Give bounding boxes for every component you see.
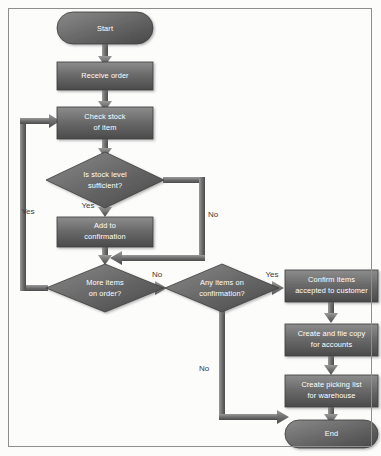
node-add-to-confirmation-label-line2: confirmation bbox=[84, 232, 125, 241]
edge-label-yes-any-items: Yes bbox=[265, 270, 278, 279]
node-stock-level-decision[interactable]: Is stock level sufficient? bbox=[46, 152, 164, 208]
edge-label-yes-stock-sufficient: Yes bbox=[81, 201, 94, 210]
node-more-items-decision[interactable]: More items on order? bbox=[46, 264, 164, 312]
connector-addconf-to-moreitems bbox=[98, 247, 112, 265]
edge-label-no-stock-sufficient: No bbox=[208, 210, 219, 219]
node-file-copy[interactable]: Create and file copy for accounts bbox=[285, 324, 378, 356]
node-start-label: Start bbox=[97, 24, 113, 33]
edge-label-no-more-items: No bbox=[152, 270, 163, 279]
node-file-copy-label-line1: Create and file copy bbox=[298, 329, 366, 338]
flowchart-canvas: Add to confirmation --> (right, down, le… bbox=[0, 0, 381, 456]
node-confirm-items[interactable]: Confirm items accepted to customer bbox=[285, 270, 378, 302]
flowchart-svg: Add to confirmation --> (right, down, le… bbox=[0, 0, 381, 456]
connector-anyitems-no-to-end bbox=[219, 310, 289, 424]
node-picking-list-label-line2: for warehouse bbox=[307, 391, 355, 400]
node-start[interactable]: Start bbox=[57, 12, 153, 44]
node-confirm-items-label-line2: accepted to customer bbox=[295, 286, 368, 295]
node-any-items-label-line1: Any items on bbox=[200, 278, 244, 287]
node-stock-level-label-line2: sufficient? bbox=[88, 181, 122, 190]
node-more-items-label-line2: on order? bbox=[89, 289, 122, 298]
node-check-stock-label-line2: of item bbox=[94, 123, 117, 132]
node-more-items-label-line1: More items bbox=[86, 278, 124, 287]
node-any-items-decision[interactable]: Any items on confirmation? bbox=[165, 264, 279, 312]
node-stock-level-label-line1: Is stock level bbox=[83, 170, 127, 179]
node-any-items-label-line2: confirmation? bbox=[199, 289, 245, 298]
node-add-to-confirmation-label-line1: Add to bbox=[94, 221, 116, 230]
node-receive-order[interactable]: Receive order bbox=[57, 62, 153, 90]
node-check-stock[interactable]: Check stock of item bbox=[57, 107, 153, 139]
connector-filecopy-to-pickinglist bbox=[324, 356, 338, 375]
node-picking-list[interactable]: Create picking list for warehouse bbox=[285, 375, 378, 407]
node-picking-list-label-line1: Create picking list bbox=[301, 380, 361, 389]
connector-confirmitems-to-filecopy bbox=[324, 302, 338, 323]
node-receive-order-label: Receive order bbox=[81, 71, 129, 80]
node-end-label: End bbox=[325, 429, 338, 438]
edge-label-no-any-items: No bbox=[199, 364, 210, 373]
node-file-copy-label-line2: for accounts bbox=[311, 340, 353, 349]
node-check-stock-label-line1: Check stock bbox=[84, 112, 126, 121]
node-add-to-confirmation[interactable]: Add to confirmation bbox=[57, 217, 153, 247]
node-confirm-items-label-line1: Confirm items bbox=[308, 275, 355, 284]
connector-moreitems-yes-to-check bbox=[20, 114, 60, 291]
edge-label-yes-loopback: Yes bbox=[21, 207, 34, 216]
node-end[interactable]: End bbox=[285, 420, 378, 448]
